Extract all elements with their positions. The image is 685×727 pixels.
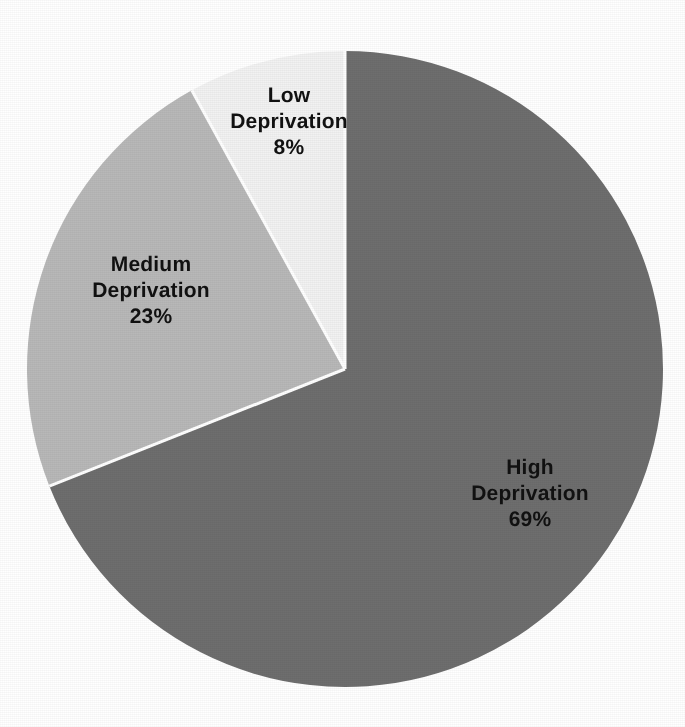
- pie-chart: High Deprivation 69% Medium Deprivation …: [0, 0, 685, 727]
- pie-chart-canvas: [0, 0, 685, 727]
